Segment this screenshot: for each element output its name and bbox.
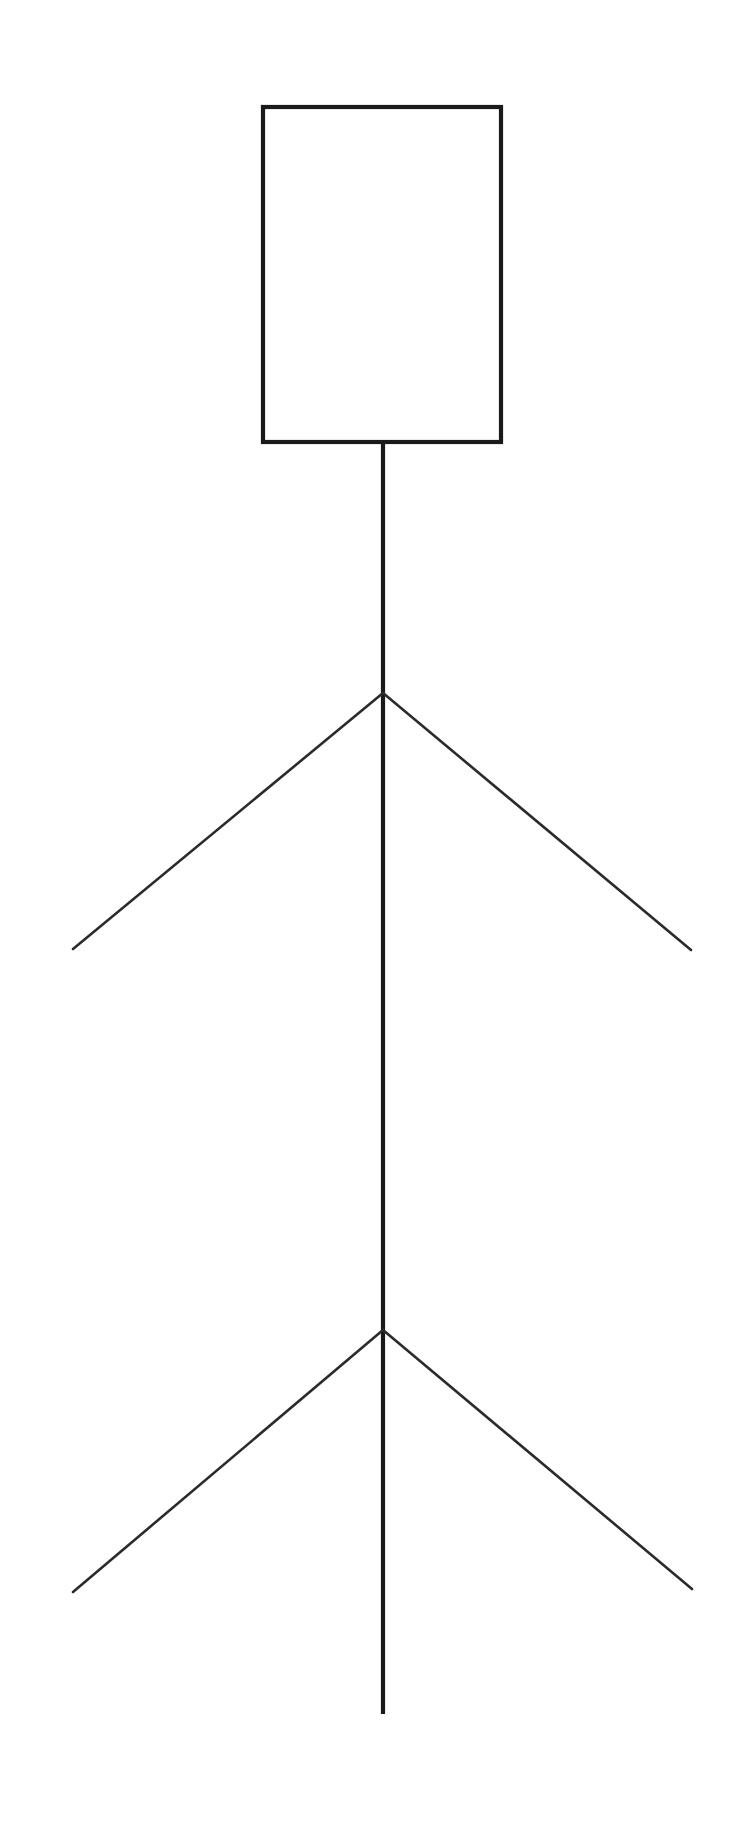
- head-rectangle: [263, 107, 501, 442]
- left-arm-line: [73, 693, 383, 949]
- drawing-canvas: [0, 0, 751, 1821]
- left-leg-line: [73, 1330, 383, 1592]
- right-leg-line: [383, 1330, 692, 1589]
- right-arm-line: [383, 693, 691, 950]
- stick-figure-illustration: [0, 0, 751, 1821]
